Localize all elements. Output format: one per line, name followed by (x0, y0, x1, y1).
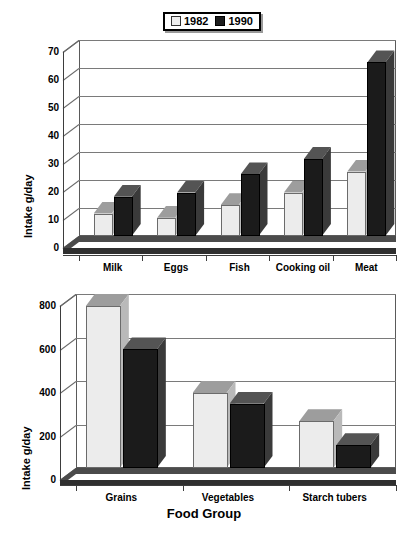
bar-front-face (284, 193, 303, 236)
gridline (79, 68, 396, 69)
bar-grains-1990 (123, 337, 166, 468)
bar-front-face (221, 205, 240, 236)
y-axis-title-top: Intake g/day (22, 174, 34, 238)
y-axis-tick-label: 50 (19, 103, 59, 113)
plot-area-bottom: 0200400600800 (60, 294, 396, 480)
bar-side-face (259, 162, 269, 236)
gridline (79, 96, 396, 97)
x-axis-tick (396, 485, 397, 491)
bar-front-face (177, 193, 196, 236)
plant-foods-chart: Intake g/day 0200400600800 GrainsVegetab… (0, 292, 408, 532)
x-axis-label-meat: Meat (325, 262, 407, 273)
bar-fish-1990 (241, 162, 268, 236)
x-axis-label-starch-tubers: Starch tubers (277, 492, 392, 503)
x-axis-line (60, 485, 396, 486)
bar-milk-1990 (114, 185, 141, 236)
legend: 1982 1990 (163, 12, 261, 31)
y-axis-tick-label: 0 (19, 243, 59, 253)
bar-front-face (336, 445, 371, 468)
legend-swatch-1990 (215, 16, 225, 26)
y-axis-tick-label: 200 (16, 432, 56, 442)
bar-front-face (367, 62, 386, 236)
y-axis-tick-label: 60 (19, 75, 59, 85)
y-axis-tick-label: 10 (19, 215, 59, 225)
y-axis-tick-label: 20 (19, 187, 59, 197)
bar-front-face (241, 174, 260, 236)
bar-meat-1990 (367, 50, 394, 236)
legend-label-1982: 1982 (184, 15, 208, 27)
y-axis-tick-label: 0 (16, 475, 56, 485)
x-axis-title: Food Group (0, 506, 408, 521)
x-axis-label-vegetables: Vegetables (171, 492, 286, 503)
bar-side-face (322, 147, 332, 236)
bar-front-face (299, 421, 334, 468)
bar-side-face (264, 392, 274, 468)
legend-label-1990: 1990 (228, 15, 252, 27)
bar-side-face (157, 337, 167, 468)
bar-cooking-oil-1990 (304, 147, 331, 236)
x-axis-tick (396, 255, 397, 261)
x-axis-line (63, 255, 396, 256)
y-axis-tick-label: 40 (19, 131, 59, 141)
legend-swatch-1982 (171, 16, 181, 26)
plot-area-top: 010203040506070 (63, 40, 396, 248)
bar-front-face (123, 349, 158, 468)
bar-side-face (385, 50, 395, 236)
legend-entry-1982: 1982 (171, 15, 208, 27)
animal-foods-chart: Intake g/day 010203040506070 MilkEggsFis… (0, 38, 408, 270)
bar-front-face (94, 214, 113, 236)
y-axis-tick-label: 800 (16, 301, 56, 311)
y-axis-tick-label: 400 (16, 388, 56, 398)
bar-front-face (157, 218, 176, 236)
bar-front-face (86, 306, 121, 468)
bar-eggs-1990 (177, 181, 204, 236)
figure-root: 1982 1990 Intake g/day 010203040506070 M… (0, 0, 408, 553)
y-axis-line (63, 52, 64, 248)
gridline (79, 40, 396, 41)
legend-entry-1990: 1990 (215, 15, 252, 27)
bar-vegetables-1990 (230, 392, 273, 468)
y-axis-tick-label: 70 (19, 47, 59, 57)
bar-front-face (304, 159, 323, 236)
bar-front-face (347, 172, 366, 236)
x-axis-label-grains: Grains (64, 492, 179, 503)
bar-starch-tubers-1990 (336, 433, 379, 468)
y-axis-line (60, 306, 61, 480)
bar-front-face (114, 197, 133, 236)
bar-front-face (193, 393, 228, 468)
gridline (79, 152, 396, 153)
y-axis-tick-label: 600 (16, 345, 56, 355)
bar-front-face (230, 404, 265, 468)
gridline (79, 124, 396, 125)
y-axis-tick-label: 30 (19, 159, 59, 169)
cropped-caption-fragment (0, 541, 408, 553)
plot-floor-front (63, 248, 396, 254)
